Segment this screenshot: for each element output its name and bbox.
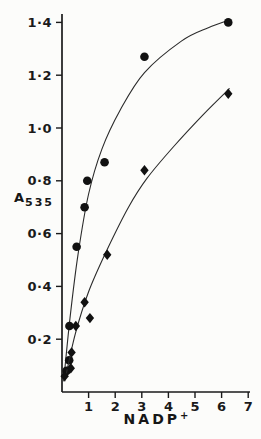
y-axis-label-sub: 535 (25, 196, 54, 209)
data-point-circle (100, 158, 109, 167)
y-tick-label: 0·2 (27, 332, 52, 347)
y-tick-label: 0·8 (27, 173, 52, 188)
x-axis-label: NADP+ (62, 410, 250, 427)
y-tick-label: 0·6 (27, 226, 52, 241)
y-axis-label: A535 (14, 190, 54, 209)
y-tick-label: 1·0 (27, 121, 52, 136)
data-point-circle (72, 243, 81, 252)
data-point-circle (83, 177, 92, 186)
chart-figure: 0·20·40·60·81·01·21·41234567 A535 NADP+ (0, 0, 261, 439)
data-point-diamond (103, 250, 111, 260)
data-point-circle (140, 52, 149, 61)
data-point-diamond (140, 165, 148, 175)
x-axis-label-main: NADP (124, 411, 180, 427)
y-tick-label: 0·4 (27, 279, 52, 294)
y-axis-label-main: A (14, 190, 25, 205)
data-point-diamond (224, 88, 232, 98)
y-tick-label: 1·4 (27, 15, 52, 30)
filled-circle-series-curve (64, 20, 230, 382)
data-point-diamond (80, 297, 88, 307)
data-point-circle (224, 18, 233, 27)
data-point-diamond (86, 313, 94, 323)
filled-diamond-series-curve (65, 88, 230, 381)
y-tick-label: 1·2 (27, 68, 52, 83)
data-point-circle (80, 203, 89, 212)
chart-canvas: 0·20·40·60·81·01·21·41234567 (0, 0, 261, 439)
x-axis-label-sup: + (180, 410, 188, 421)
data-point-diamond (67, 347, 75, 357)
